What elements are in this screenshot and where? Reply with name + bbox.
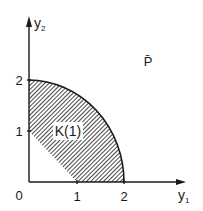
x-axis-arrow-icon bbox=[176, 179, 186, 185]
diagram-canvas: K(1) P̄ y2 y1 0 1 2 1 2 bbox=[0, 0, 203, 211]
y-axis-label: y2 bbox=[34, 15, 46, 33]
x-tick-label-2: 2 bbox=[120, 189, 127, 204]
y-tick-label-2: 2 bbox=[15, 73, 22, 88]
y-tick-label-1: 1 bbox=[15, 124, 22, 139]
region-label: K(1) bbox=[55, 123, 81, 139]
y-axis-arrow-icon bbox=[26, 16, 32, 27]
set-label: P̄ bbox=[144, 54, 153, 69]
x-tick-label-1: 1 bbox=[73, 189, 80, 204]
x-axis-label: y1 bbox=[178, 187, 190, 205]
origin-label: 0 bbox=[15, 188, 22, 203]
